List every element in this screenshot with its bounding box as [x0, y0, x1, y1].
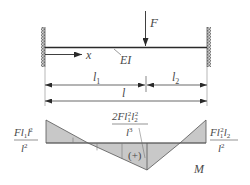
- right-moment-denominator: l2: [218, 142, 225, 154]
- right-moment-numerator: Fl12l2: [209, 126, 231, 140]
- l-label: l: [122, 86, 126, 100]
- positive-sign: (+): [128, 149, 142, 162]
- right-moment-value: Fl12l2 l2: [209, 126, 238, 154]
- max-moment-numerator: 2Fl12l22: [112, 110, 139, 124]
- moment-region-left: [46, 120, 88, 143]
- left-moment-numerator: Fl1l2: [13, 126, 33, 140]
- x-axis-label: x: [85, 48, 92, 62]
- l2-label: l2: [172, 70, 179, 86]
- left-moment-denominator: l2: [21, 142, 28, 154]
- right-fixed-support: [207, 27, 211, 67]
- left-moment-value: Fl1l2 l2: [13, 126, 38, 154]
- l1-label: l1: [93, 70, 100, 86]
- beam-diagram: F x EI l1 l2 l (+) Fl1l2 l2 2Fl12l22 l3 …: [0, 0, 250, 185]
- ei-label: EI: [119, 53, 132, 67]
- moment-label: M: [193, 162, 205, 176]
- left-fixed-support: [41, 27, 45, 67]
- force-label: F: [149, 15, 159, 30]
- moment-region-right: [180, 120, 206, 143]
- max-moment-value: 2Fl12l22 l3: [112, 110, 148, 138]
- max-moment-denominator: l3: [126, 126, 133, 138]
